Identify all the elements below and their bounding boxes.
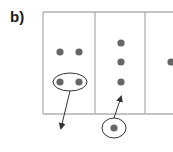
particle-dot bbox=[75, 48, 82, 55]
arrows bbox=[61, 91, 121, 128]
outgoing-arrow bbox=[61, 91, 70, 128]
particle-dot bbox=[167, 58, 173, 65]
container-box bbox=[43, 12, 173, 114]
particle-dot bbox=[117, 39, 124, 46]
particle-dot bbox=[56, 78, 63, 85]
particle-box-diagram bbox=[0, 0, 173, 152]
incoming-arrow bbox=[114, 97, 121, 118]
particle-dot bbox=[117, 58, 124, 65]
particle-dot bbox=[75, 78, 82, 85]
incoming-particle-dot bbox=[110, 124, 117, 131]
particle-dot bbox=[117, 78, 124, 85]
particle-dot bbox=[56, 48, 63, 55]
